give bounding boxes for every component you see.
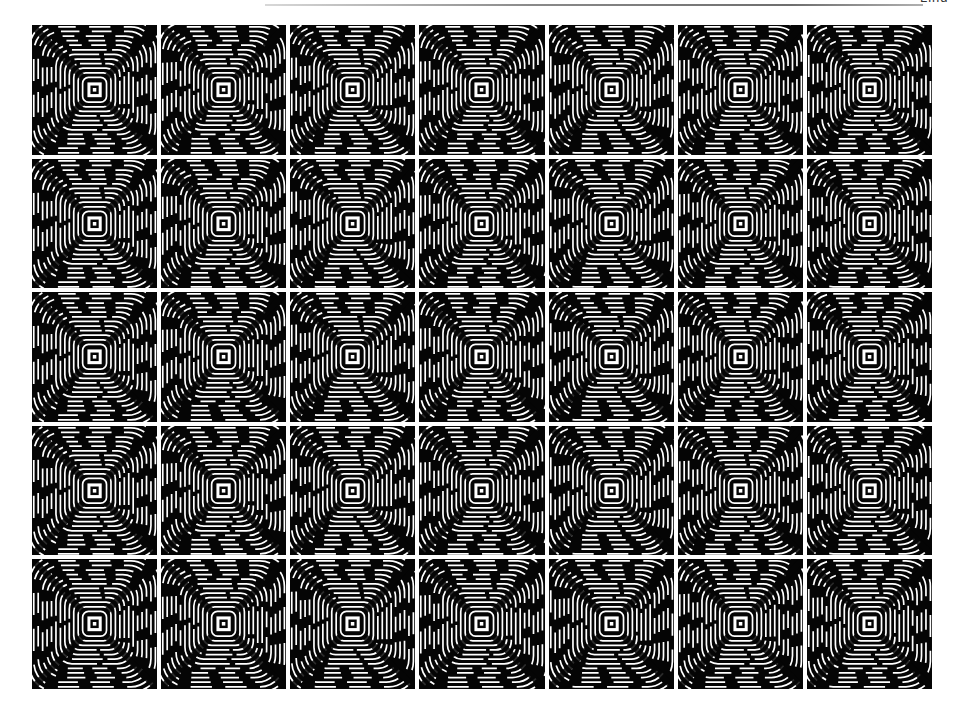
pattern-tile: [290, 292, 415, 422]
pattern-tile: [678, 426, 803, 556]
pattern-tile: [549, 25, 674, 155]
pattern-tile: [549, 559, 674, 689]
pattern-tile: [290, 159, 415, 289]
pattern-tile: [549, 159, 674, 289]
header-rule: [265, 4, 923, 6]
pattern-tile: [678, 292, 803, 422]
pattern-tile: [678, 559, 803, 689]
pattern-tile: [32, 292, 157, 422]
pattern-tile: [32, 159, 157, 289]
pattern-tile: [161, 25, 286, 155]
pattern-tile: [807, 292, 932, 422]
pattern-tile: [290, 426, 415, 556]
pattern-tile: [807, 159, 932, 289]
pattern-tile: [32, 559, 157, 689]
pattern-tile: [549, 292, 674, 422]
pattern-tile: [32, 25, 157, 155]
pattern-tile: [807, 25, 932, 155]
pattern-tile: [161, 559, 286, 689]
pattern-tile: [419, 559, 544, 689]
running-header-label: Lind: [920, 0, 949, 4]
pattern-tile: [807, 426, 932, 556]
pattern-tile: [549, 426, 674, 556]
pattern-tile: [161, 426, 286, 556]
pattern-tile: [161, 292, 286, 422]
figure-tile-grid: [32, 25, 932, 689]
pattern-tile: [678, 159, 803, 289]
pattern-tile: [419, 426, 544, 556]
pattern-tile: [678, 25, 803, 155]
pattern-tile: [807, 559, 932, 689]
pattern-tile: [161, 159, 286, 289]
pattern-tile: [32, 426, 157, 556]
pattern-tile: [419, 292, 544, 422]
pattern-tile: [419, 25, 544, 155]
pattern-tile: [290, 559, 415, 689]
pattern-tile: [290, 25, 415, 155]
pattern-tile: [419, 159, 544, 289]
